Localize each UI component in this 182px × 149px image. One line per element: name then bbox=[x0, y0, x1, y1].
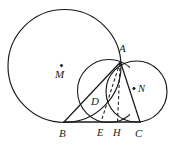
center-dot-n bbox=[133, 87, 135, 89]
label-point-a: A bbox=[119, 43, 126, 54]
label-point-d: D bbox=[91, 96, 99, 107]
center-dot-m bbox=[60, 64, 62, 66]
label-point-e: E bbox=[97, 128, 103, 139]
label-point-c: C bbox=[135, 128, 142, 139]
segment-ba bbox=[64, 62, 121, 122]
circle-m bbox=[8, 10, 121, 123]
segment-ae-dashed bbox=[101, 63, 120, 123]
circle-through-d bbox=[78, 60, 141, 123]
geometry-figure-svg bbox=[0, 0, 182, 149]
segment-ah-dashed bbox=[118, 63, 121, 123]
geometry-figure-root: M N A B E H C D bbox=[0, 0, 182, 149]
label-center-n: N bbox=[138, 84, 145, 95]
label-center-m: M bbox=[55, 69, 64, 80]
label-point-h: H bbox=[113, 128, 121, 139]
label-point-b: B bbox=[59, 128, 66, 139]
